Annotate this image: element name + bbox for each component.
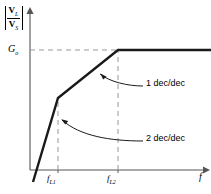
annotation-1-dec-per-dec: 1 dec/dec [146,79,185,88]
abs-bar-left [5,6,6,30]
y-axis-label: VL VS [3,6,24,31]
annotation-1-leader-arrowhead [101,74,107,80]
x-axis-arrowhead [203,166,210,173]
abs-bar-right [22,6,23,30]
annotation-1-leader-line [100,74,143,86]
fraction-denominator: VS [8,19,20,31]
numerator-subscript: L [15,11,18,17]
gain-level-label: Go [8,44,18,56]
fl1-subscript: L1 [50,179,56,185]
plot-canvas [0,0,211,194]
fraction-numerator: VL [8,6,20,18]
denominator-subscript: S [15,25,18,31]
bode-magnitude-figure: VL VS Go fL1 fL2 f 1 dec/dec 2 dec/dec [0,0,211,194]
x-tick-label-fl2: fL2 [107,174,116,185]
voltage-ratio-fraction: VL VS [7,6,20,31]
x-tick-label-fl1: fL1 [47,174,56,185]
y-axis-arrowhead [26,7,33,14]
magnitude-asymptote-curve [33,50,211,182]
fl2-subscript: L2 [110,179,116,185]
annotation-2-dec-per-dec: 2 dec/dec [146,134,185,143]
gain-subscript: o [15,50,18,56]
annotation-2-leader-line [62,120,143,141]
x-axis-label: f [199,172,202,182]
